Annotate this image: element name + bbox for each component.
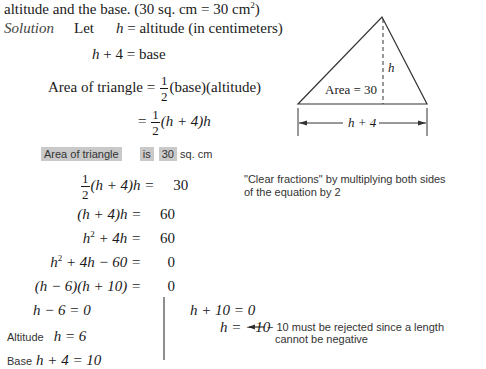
note-line-1: "Clear fractions" by multiplying both si… <box>244 173 446 186</box>
area-label: Area = 30 <box>325 83 377 96</box>
left-eq-1: h − 6 = 0 <box>33 303 91 318</box>
base-row: Base h + 4 = 10 <box>7 352 101 368</box>
step-4: h2 + 4h − 60 = 0 <box>50 255 175 270</box>
highlight-30: 30 <box>159 147 177 161</box>
step-rhs: 60 <box>145 231 175 246</box>
highlight-is: is <box>140 147 154 161</box>
reject-note: − 10 must be rejected since a length can… <box>267 321 444 345</box>
right-eq-2: h = −10 <box>220 320 270 335</box>
base-label: Base <box>7 355 32 367</box>
step-lhs: (h + 4)h = <box>91 177 159 193</box>
step-1: 12(h + 4)h = 30 <box>80 170 188 201</box>
height-label: h <box>388 61 395 74</box>
fraction-half: 12 <box>81 172 90 201</box>
step-lhs: + 4h = <box>95 230 145 246</box>
step-lhs: + 4h − 60 = <box>62 254 145 270</box>
altitude-eq: h = 6 <box>54 328 87 344</box>
step-rhs: 60 <box>145 207 175 222</box>
step-5: (h − 6)(h + 10) = 0 <box>35 279 175 294</box>
step-rhs: 0 <box>145 279 175 294</box>
denominator: 2 <box>81 187 90 201</box>
var-h: h <box>50 254 58 270</box>
step-3: h2 + 4h = 60 <box>83 231 175 246</box>
base-label: h + 4 <box>348 116 376 129</box>
translation-row: Area of triangle is 30 sq. cm <box>41 149 212 160</box>
altitude-row: Altitude h = 6 <box>7 328 86 344</box>
step-rhs: 0 <box>145 255 175 270</box>
base-eq: h + 4 = 10 <box>36 352 101 368</box>
clear-fractions-note: "Clear fractions" by multiplying both si… <box>244 173 446 199</box>
note-line-2: of the equation by 2 <box>244 186 446 199</box>
step-rhs: 30 <box>158 170 188 200</box>
unit-text: sq. cm <box>180 148 212 160</box>
step-2: (h + 4)h = 60 <box>77 207 175 222</box>
highlight-area-of-triangle: Area of triangle <box>41 147 122 161</box>
right-eq-1: h + 10 = 0 <box>190 303 255 318</box>
altitude-label: Altitude <box>7 331 44 343</box>
numerator: 1 <box>81 172 90 187</box>
step-lhs: (h − 6)(h + 10) = <box>35 278 145 294</box>
note-line-1: − 10 must be rejected since a length <box>267 321 444 333</box>
step-lhs: (h + 4)h = <box>77 206 145 222</box>
note-line-2: cannot be negative <box>267 333 444 345</box>
